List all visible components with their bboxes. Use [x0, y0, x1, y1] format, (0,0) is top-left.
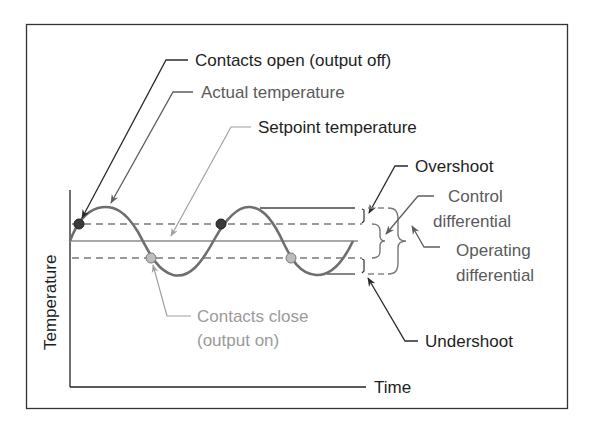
contacts-close-marker — [286, 253, 296, 263]
contacts-open-marker — [74, 219, 84, 229]
operating-differential-label-2: differential — [456, 266, 534, 285]
undershoot-bracket — [362, 259, 364, 273]
diagram-canvas: Temperature Time Contacts open (output o… — [0, 0, 602, 432]
contacts-close-marker — [146, 253, 156, 263]
control-differential-label-2: differential — [433, 212, 511, 231]
control-differential-leader — [386, 196, 434, 234]
setpoint-temperature-label: Setpoint temperature — [258, 118, 417, 137]
contacts-close-leader — [153, 265, 191, 316]
contacts-close-label-2: (output on) — [197, 331, 279, 350]
contacts-open-marker — [216, 219, 226, 229]
control-differential-brace — [372, 224, 385, 258]
overshoot-label: Overshoot — [415, 157, 494, 176]
control-differential-label-1: Control — [448, 187, 503, 206]
actual-temperature-leader — [111, 92, 193, 203]
actual-temperature-label: Actual temperature — [201, 83, 345, 102]
overshoot-bracket — [362, 209, 364, 223]
contacts-open-label: Contacts open (output off) — [195, 51, 391, 70]
operating-differential-brace — [388, 208, 406, 274]
y-axis-label: Temperature — [41, 255, 60, 350]
x-axis-label: Time — [374, 378, 411, 397]
undershoot-label: Undershoot — [425, 332, 513, 351]
overshoot-leader — [369, 166, 408, 213]
contacts-close-label-1: Contacts close — [197, 307, 309, 326]
operating-differential-label-1: Operating — [456, 241, 531, 260]
contacts-open-leader — [82, 60, 188, 218]
undershoot-leader — [368, 278, 418, 341]
setpoint-temperature-leader — [171, 127, 251, 236]
